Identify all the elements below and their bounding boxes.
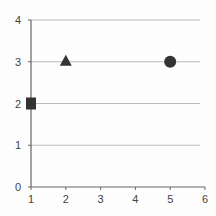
y-tick-label: 4 [15, 14, 21, 26]
y-tick-label: 3 [15, 56, 21, 68]
x-tick-label: 5 [167, 193, 173, 205]
x-tick-label: 6 [202, 193, 208, 205]
y-tick-label: 0 [15, 181, 21, 193]
x-tick-label: 2 [63, 193, 69, 205]
data-points [26, 55, 176, 110]
y-tick-label: 2 [15, 98, 21, 110]
gridlines [31, 20, 200, 145]
scatter-chart: 01234 123456 [0, 0, 216, 216]
x-tick-label: 4 [132, 193, 138, 205]
x-tick-label: 3 [98, 193, 104, 205]
circle-marker [164, 56, 176, 68]
triangle-marker [60, 55, 72, 66]
square-marker [26, 98, 36, 110]
x-axis-ticks: 123456 [28, 187, 208, 205]
x-tick-label: 1 [28, 193, 34, 205]
y-tick-label: 1 [15, 139, 21, 151]
